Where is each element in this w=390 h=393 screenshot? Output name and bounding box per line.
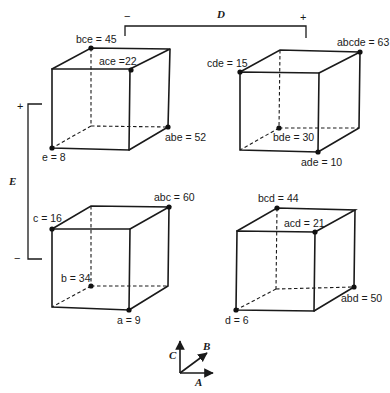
d-low-sign: − [124, 10, 130, 22]
point-cde [237, 69, 242, 74]
b-axis-label: B [202, 340, 210, 352]
label-e: e = 8 [42, 151, 66, 163]
point-b [88, 283, 93, 288]
cube-d-high-e-low: bcd = 44 acd = 21 abd = 50 d = 6 [225, 192, 382, 326]
point-bce [88, 45, 93, 50]
point-e [49, 145, 54, 150]
a-axis-label: A [194, 376, 202, 388]
point-ace [128, 67, 133, 72]
label-bcd: bcd = 44 [258, 192, 299, 204]
d-high-sign: + [300, 11, 306, 23]
label-acd: acd = 21 [284, 217, 325, 229]
label-b: b = 34 [61, 272, 91, 284]
point-abd [351, 284, 356, 289]
label-bce: bce = 45 [76, 33, 117, 45]
label-ace: ace =22 [99, 55, 137, 67]
cube-d-low-e-low: c = 16 abc = 60 b = 34 a = 9 [33, 191, 195, 326]
factor-e-bracket: + − E [8, 100, 42, 264]
label-abc: abc = 60 [154, 191, 195, 203]
label-a: a = 9 [117, 314, 141, 326]
point-abcde [357, 49, 362, 54]
point-abe [165, 124, 170, 129]
label-cde: cde = 15 [207, 57, 248, 69]
cube-d-low-e-high: bce = 45 ace =22 abe = 52 e = 8 [42, 33, 206, 163]
c-axis-label: C [169, 349, 177, 361]
factorial-design-diagram: − + D + − E bce = 45 ace =22 abe = 52 e … [0, 0, 390, 393]
e-label: E [8, 175, 16, 187]
point-a [126, 307, 131, 312]
d-label: D [216, 8, 225, 20]
factor-d-bracket: − + D [124, 8, 306, 38]
e-low-sign: − [14, 252, 20, 264]
point-bcd [274, 205, 279, 210]
point-bde [276, 125, 281, 130]
e-high-sign: + [17, 100, 23, 112]
b-axis-arrow-icon [180, 353, 207, 373]
d-bracket-line [125, 26, 306, 38]
e-bracket-line [28, 104, 42, 259]
label-abd: abd = 50 [341, 292, 382, 304]
label-abcde: abcde = 63 [337, 36, 389, 48]
axes-key: C B A [169, 340, 213, 388]
point-c [49, 226, 54, 231]
label-ade: ade = 10 [301, 156, 342, 168]
point-ade [315, 149, 320, 154]
point-abc [166, 204, 171, 209]
point-d [233, 307, 238, 312]
label-c: c = 16 [33, 212, 62, 224]
label-bde: bde = 30 [273, 131, 314, 143]
point-acd [312, 229, 317, 234]
cube-d-high-e-high: cde = 15 abcde = 63 bde = 30 ade = 10 [207, 36, 389, 168]
label-abe: abe = 52 [165, 131, 206, 143]
label-d: d = 6 [225, 314, 249, 326]
